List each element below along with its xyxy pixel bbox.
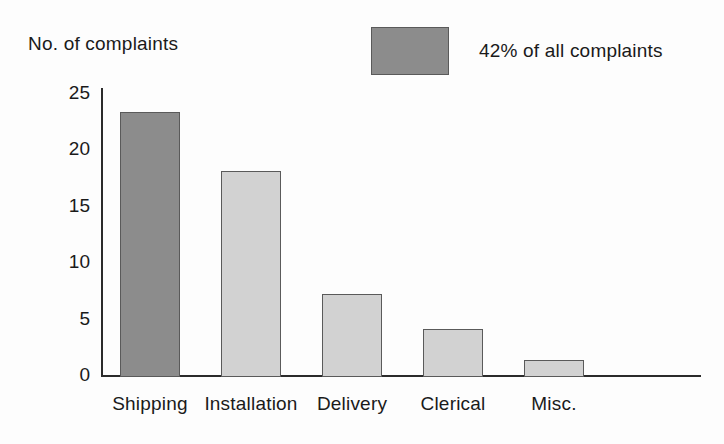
x-tick-label-delivery: Delivery xyxy=(317,393,387,415)
bar-installation xyxy=(221,171,281,377)
x-tick-label-shipping: Shipping xyxy=(112,393,188,415)
x-axis-tick-labels: ShippingInstallationDeliveryClericalMisc… xyxy=(0,393,724,423)
bar-series xyxy=(0,0,724,444)
bar-clerical xyxy=(423,329,483,378)
bar-delivery xyxy=(322,294,382,377)
complaints-bar-chart: No. of complaints 42% of all complaints … xyxy=(0,0,724,444)
x-tick-label-installation: Installation xyxy=(204,393,297,415)
x-tick-label-misc: Misc. xyxy=(531,393,576,415)
bar-shipping xyxy=(120,112,180,377)
bar-misc xyxy=(524,360,584,377)
x-tick-label-clerical: Clerical xyxy=(421,393,486,415)
